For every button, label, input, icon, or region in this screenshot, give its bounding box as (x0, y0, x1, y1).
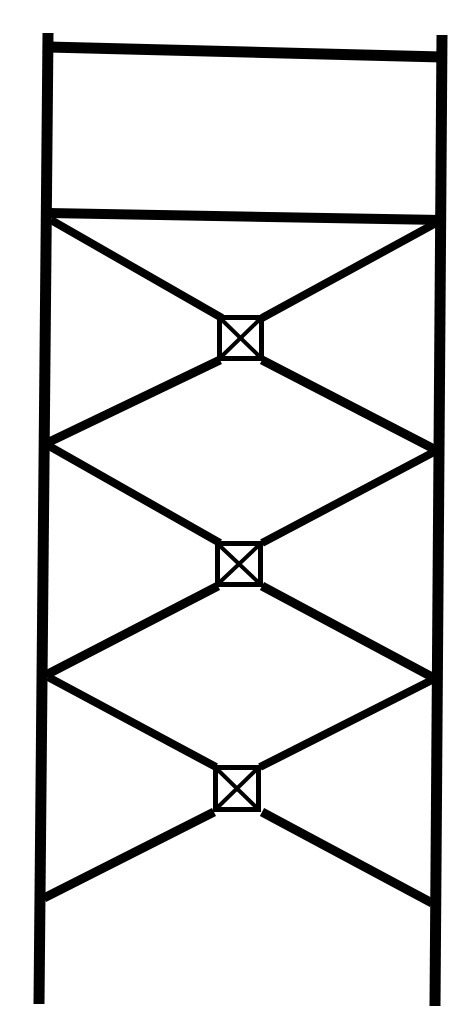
scaffold-frame-diagram (0, 0, 463, 1023)
node-2-cross-box-icon (218, 544, 261, 585)
scaffold-frame-drawing (0, 0, 463, 1023)
right-post (435, 35, 442, 1006)
node-3-cross-box-icon (216, 768, 259, 810)
node-1-cross-box-icon (220, 318, 262, 359)
background (0, 0, 463, 1023)
mid-rail (48, 213, 442, 220)
